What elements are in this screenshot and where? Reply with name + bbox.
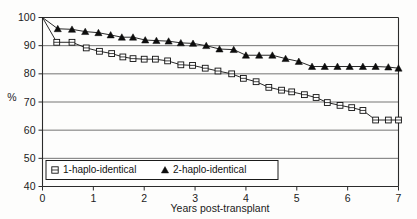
data-point [120,54,126,60]
series-group [43,18,403,123]
data-point [229,71,235,77]
y-tick-label-100: 100 [18,11,36,23]
x-tick-label-1: 1 [90,192,96,204]
data-point [109,51,115,57]
data-point [289,89,295,95]
data-point [141,56,147,62]
data-point [165,58,171,64]
x-tick-label-7: 7 [396,192,402,204]
data-point [178,62,184,68]
y-tick-label-60: 60 [24,124,36,136]
y-tick-label-50: 50 [24,152,36,164]
y-axis-title: % [7,91,16,103]
y-tick-label-80: 80 [24,67,36,79]
legend-item-2: 2-haplo-identical [161,164,246,175]
data-point [337,102,343,108]
legend-label-1: 1-haplo-identical [63,164,136,175]
y-tick-label-90: 90 [24,39,36,51]
data-point [153,56,159,62]
series-markers-1 [54,39,402,123]
data-point [54,39,60,45]
data-point [349,105,355,111]
data-point [83,45,89,51]
x-tick-labels: 01234567 [40,187,402,204]
data-point [279,87,285,93]
series-line-2 [43,18,399,69]
grid-group [43,46,399,159]
x-tick-label-2: 2 [141,192,147,204]
chart-figure: 405060708090100 01234567 % Years post-tr… [0,0,417,219]
y-tick-labels: 405060708090100 [18,11,43,192]
data-point [253,79,259,85]
y-tick-label-70: 70 [24,96,36,108]
data-point [373,117,379,123]
data-point [360,108,366,114]
x-axis-title: Years post-transplant [171,202,270,214]
data-point [69,39,75,45]
x-tick-label-6: 6 [345,192,351,204]
series-2 [43,18,403,72]
legend-label-2: 2-haplo-identical [173,164,246,175]
series-markers-2 [54,25,402,71]
y-tick-label-40: 40 [24,180,36,192]
data-point [396,117,402,123]
x-tick-label-5: 5 [294,192,300,204]
data-point [324,100,330,106]
x-tick-label-0: 0 [40,192,46,204]
data-point [302,92,308,98]
data-point [130,56,136,62]
legend: 1-haplo-identical2-haplo-identical [46,161,278,180]
legend-item-1: 1-haplo-identical [52,164,137,175]
data-point [190,62,196,68]
data-point [385,117,391,123]
legend-marker-square-icon [52,167,58,173]
data-point [240,75,246,81]
data-point [202,65,208,71]
data-point [266,84,272,90]
data-point [97,48,103,54]
survival-curve-chart: 405060708090100 01234567 % Years post-tr… [0,0,417,219]
data-point [215,68,221,74]
data-point [313,95,319,101]
